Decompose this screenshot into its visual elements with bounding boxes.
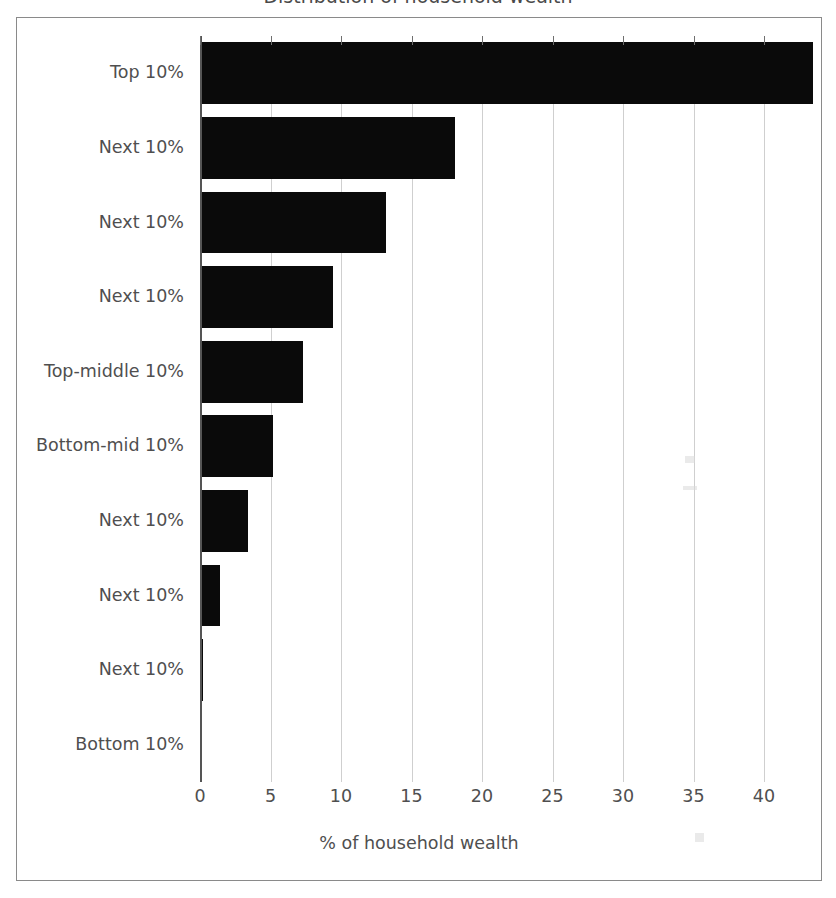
bar[interactable] — [200, 341, 303, 403]
value-axis-tick-label: 0 — [194, 786, 205, 806]
tickmark — [694, 36, 695, 45]
bar-row — [200, 117, 822, 179]
bar-row — [200, 192, 822, 254]
bar-row — [200, 415, 822, 477]
chart-frame: Top 10%Next 10%Next 10%Next 10%Top-middl… — [16, 17, 822, 881]
tickmark — [764, 36, 765, 45]
chart-title-text: Distribution of household wealth — [0, 0, 836, 7]
tickmark — [482, 36, 483, 45]
tickmark — [623, 36, 624, 45]
tickmark — [412, 36, 413, 45]
category-axis-tick-label: Next 10% — [99, 587, 184, 605]
category-axis-tick-label: Next 10% — [99, 661, 184, 679]
category-axis-tick-label: Next 10% — [99, 512, 184, 530]
bar-row — [200, 341, 822, 403]
clipped-chart-title: Distribution of household wealth — [0, 0, 836, 16]
bar-row — [200, 639, 822, 701]
value-axis-labels: 0510152025303540 — [200, 786, 822, 816]
plot-area — [200, 36, 822, 782]
category-axis-tick-label: Next 10% — [99, 214, 184, 232]
bar-series — [200, 36, 822, 782]
value-axis-tick-label: 35 — [682, 786, 704, 806]
bar[interactable] — [200, 565, 220, 627]
value-axis-tick-label: 15 — [400, 786, 422, 806]
category-axis-tick-label: Top 10% — [110, 64, 184, 82]
value-axis-line — [200, 36, 202, 782]
tickmark — [553, 36, 554, 45]
tickmark — [200, 36, 201, 45]
tickmark — [341, 36, 342, 45]
bar-row — [200, 565, 822, 627]
value-axis-tick-label: 20 — [471, 786, 493, 806]
category-axis-tick-label: Bottom 10% — [75, 736, 184, 754]
bar-row — [200, 42, 822, 104]
x-axis-title: % of household wealth — [17, 833, 821, 853]
bar[interactable] — [200, 117, 455, 179]
bar-row — [200, 266, 822, 328]
value-axis-tick-label: 25 — [541, 786, 563, 806]
category-axis-tick-label: Next 10% — [99, 139, 184, 157]
value-axis-tick-label: 30 — [612, 786, 634, 806]
value-axis-tick-label: 40 — [753, 786, 775, 806]
bar-row — [200, 490, 822, 552]
bar[interactable] — [200, 42, 813, 104]
bar[interactable] — [200, 490, 248, 552]
category-axis-tick-label: Next 10% — [99, 288, 184, 306]
category-axis-labels: Top 10%Next 10%Next 10%Next 10%Top-middl… — [17, 36, 193, 782]
bar[interactable] — [200, 415, 273, 477]
bar-row — [200, 714, 822, 776]
category-axis-tick-label: Top-middle 10% — [44, 363, 184, 381]
category-axis-tick-label: Bottom-mid 10% — [36, 437, 184, 455]
bar[interactable] — [200, 266, 333, 328]
tickmark — [271, 36, 272, 45]
value-axis-tick-label: 10 — [330, 786, 352, 806]
bar[interactable] — [200, 192, 386, 254]
value-axis-tick-label: 5 — [265, 786, 276, 806]
